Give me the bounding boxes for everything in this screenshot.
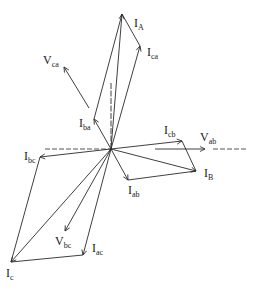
construction-I_ab-to-I_B	[128, 171, 196, 180]
label-I_A: IA	[134, 16, 144, 32]
phasor-I_ba	[94, 119, 111, 149]
label-V_ab: Vab	[200, 130, 216, 146]
phasor-diagram: IA Ica Vca Iba Icb Vab Ibc Iab IB Vbc Ia…	[0, 0, 262, 291]
phasor-V_ca	[64, 67, 89, 108]
label-I_cb: Icb	[164, 123, 176, 139]
label-V_bc: Vbc	[55, 234, 72, 250]
label-V_ca: Vca	[43, 53, 59, 69]
label-I_c: Ic	[6, 266, 14, 282]
label-I_B: IB	[204, 166, 213, 182]
label-I_ca: Ica	[147, 45, 159, 61]
phasor-I_bc	[40, 149, 111, 157]
phasor-I_ab	[111, 149, 128, 180]
phasor-I_B	[111, 149, 196, 171]
phasor-I_cb	[111, 141, 182, 149]
label-I_ba: Iba	[79, 116, 91, 132]
phasor-V_bc	[65, 149, 111, 231]
label-I_ac: Iac	[92, 241, 104, 257]
label-I_ab: Iab	[128, 183, 140, 199]
label-I_bc: Ibc	[24, 149, 36, 165]
construction-I_cb-to-I_B	[182, 141, 196, 171]
construction-I_ac-to-I_c	[11, 255, 83, 262]
